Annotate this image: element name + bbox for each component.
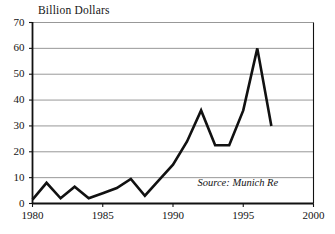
y-tick-label-50: 50 — [3, 68, 25, 79]
chart-plot-area — [0, 0, 335, 234]
y-tick-label-70: 70 — [3, 17, 25, 28]
y-tick-label-40: 40 — [3, 94, 25, 105]
x-tick-label-1985: 1985 — [80, 210, 126, 221]
x-tick-label-2000: 2000 — [291, 210, 335, 221]
y-tick-label-0: 0 — [3, 198, 25, 209]
x-tick-label-1990: 1990 — [150, 210, 196, 221]
y-tick-label-10: 10 — [3, 172, 25, 183]
y-tick-label-30: 30 — [3, 120, 25, 131]
y-tick-label-60: 60 — [3, 42, 25, 53]
chart-container: Billion Dollars 010203040506070 19801985… — [0, 0, 335, 234]
y-tick-label-20: 20 — [3, 146, 25, 157]
x-tick-label-1980: 1980 — [10, 210, 56, 221]
gridlines-group — [33, 23, 314, 178]
source-attribution: Source: Munich Re — [198, 177, 279, 188]
x-tick-label-1995: 1995 — [220, 210, 266, 221]
